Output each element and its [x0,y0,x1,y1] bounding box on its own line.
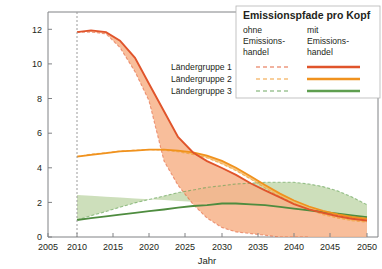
y-tick-0: 0 [37,232,52,242]
x-tick-label: 2005 [38,242,58,252]
legend-col-ohne-line1: ohne [243,25,262,35]
x-tick-label: 2015 [103,242,123,252]
x-axis-title: Jahr [198,255,216,266]
chart-container: 0 2 4 6 8 10 12 2005 2010 2015 2020 2025… [0,0,382,269]
x-tick-label: 2045 [320,242,340,252]
y-tick-label: 6 [37,128,42,138]
x-tick-label: 2035 [248,242,268,252]
y-tick-6: 6 [37,128,52,138]
y-tick-label: 0 [37,232,42,242]
x-tick-label: 2025 [175,242,195,252]
x-tick-2020: 2020 [139,233,159,252]
y-tick-label: 12 [32,25,42,35]
x-tick-label: 2040 [284,242,304,252]
legend-col-mit-line2: Emissions- [307,36,349,46]
y-tick-4: 4 [37,163,52,173]
y-tick-label: 2 [37,198,42,208]
y-tick-10: 10 [32,59,52,69]
x-tick-label: 2030 [212,242,232,252]
x-tick-label: 2020 [139,242,159,252]
legend-title: Emissionspfade pro Kopf [243,9,371,21]
x-tick-label: 2050 [357,242,377,252]
legend-item-label: Ländergruppe 3 [171,86,232,96]
legend-col-mit-line3: handel [307,47,333,57]
y-tick-label: 10 [32,59,42,69]
legend-col-mit-line1: mit [307,25,319,35]
legend-item-label: Ländergruppe 2 [171,74,232,84]
y-tick-12: 12 [32,25,52,35]
x-tick-label: 2010 [67,242,87,252]
legend-item-label: Ländergruppe 1 [171,62,232,72]
x-tick-2030: 2030 [212,233,232,252]
x-tick-2025: 2025 [175,233,195,252]
legend-col-ohne-line3: handel [243,47,269,57]
x-tick-2010: 2010 [67,233,87,252]
legend: Emissionspfade pro Kopf ohne Emissions- … [171,6,380,98]
legend-col-ohne-line2: Emissions- [243,36,285,46]
y-tick-2: 2 [37,198,52,208]
emissions-pathways-chart: 0 2 4 6 8 10 12 2005 2010 2015 2020 2025… [0,0,382,269]
y-tick-8: 8 [37,94,52,104]
y-tick-label: 8 [37,94,42,104]
y-tick-label: 4 [37,163,42,173]
x-tick-2015: 2015 [103,233,123,252]
y-axis: 0 2 4 6 8 10 12 [32,25,52,243]
